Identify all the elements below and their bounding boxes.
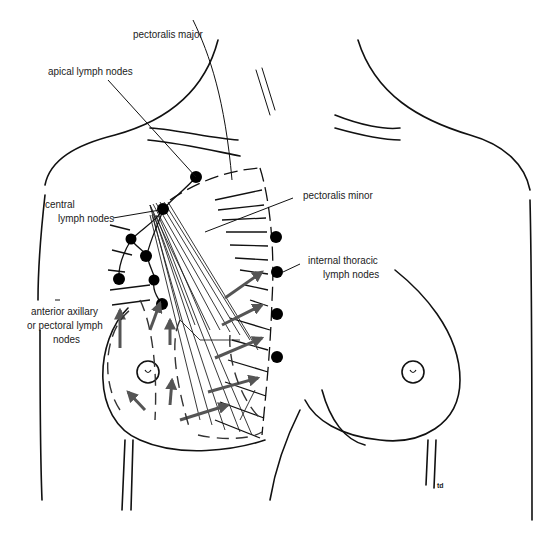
- internal-thoracic-node-3: [271, 308, 283, 320]
- anterior-node-1: [113, 273, 125, 285]
- pectoralis-minor-muscle: [150, 202, 258, 435]
- label-pectoralis-minor: pectoralis minor: [303, 189, 373, 202]
- body-outline: [38, 40, 532, 520]
- label-internal-thoracic-line2: lymph nodes: [323, 268, 379, 281]
- internal-thoracic-node-4: [271, 351, 283, 363]
- label-central-line2: lymph nodes: [58, 212, 114, 225]
- pectoralis-major-muscle: [170, 168, 273, 438]
- central-node-3: [140, 250, 152, 262]
- drainage-arrows: [120, 272, 262, 420]
- axillary-chain: [108, 177, 196, 305]
- lymph-nodes: [113, 171, 283, 363]
- label-anterior-line1: anterior axillary: [31, 305, 98, 318]
- leader-lines: [55, 20, 300, 300]
- label-apical-lymph-nodes: apical lymph nodes: [48, 65, 133, 78]
- internal-thoracic-node-2: [271, 266, 283, 278]
- artist-signature: td: [437, 482, 444, 489]
- nipple-icons: [137, 361, 424, 383]
- label-internal-thoracic-line1: internal thoracic: [308, 254, 378, 267]
- central-node-1: [157, 203, 169, 215]
- central-node-2: [126, 234, 137, 245]
- label-anterior-line3: nodes: [53, 333, 80, 346]
- label-central-line1: central: [45, 198, 75, 211]
- breast-lymphatic-diagram: pectoralis major apical lymph nodes cent…: [0, 0, 548, 542]
- internal-thoracic-node-1: [270, 231, 282, 243]
- anterior-node-2: [149, 275, 160, 286]
- anatomy-illustration: [0, 0, 548, 542]
- label-anterior-line2: or pectoral lymph: [27, 319, 103, 332]
- label-pectoralis-major: pectoralis major: [133, 28, 203, 41]
